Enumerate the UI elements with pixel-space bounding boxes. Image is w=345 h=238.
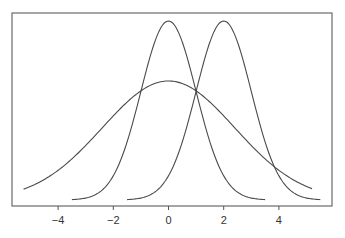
x-axis: −4−2024: [52, 206, 282, 226]
curve-series-0: [72, 21, 265, 200]
x-tick-label: −2: [107, 214, 120, 226]
x-tick-label: 4: [276, 214, 282, 226]
curve-series-2: [24, 81, 312, 189]
x-tick-label: 2: [221, 214, 227, 226]
curve-series-1: [127, 21, 320, 200]
x-tick-label: 0: [165, 214, 171, 226]
plot-frame: [12, 13, 332, 206]
x-tick-label: −4: [52, 214, 65, 226]
curves: [24, 21, 321, 200]
chart: −4−2024: [0, 0, 345, 238]
